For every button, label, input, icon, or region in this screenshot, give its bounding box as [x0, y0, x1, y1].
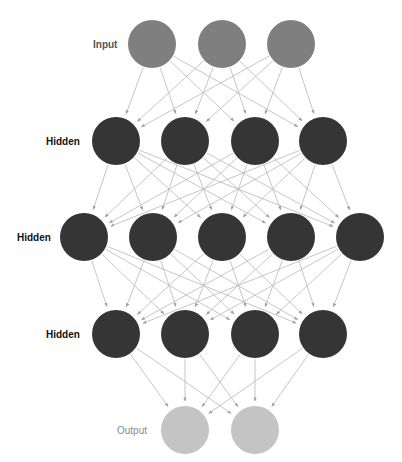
edge-l0n0-l1n0: [126, 67, 143, 113]
edge-l1n3-l2n4: [332, 164, 350, 210]
edge-l0n0-l1n1: [160, 68, 176, 114]
edge-l1n0-l2n3: [138, 153, 266, 223]
edge-l0n2-l1n1: [206, 61, 272, 122]
edge-l3n3-l4n1: [272, 354, 309, 406]
edge-l1n0-l2n0: [93, 165, 108, 210]
edge-l1n0-l2n2: [135, 158, 201, 218]
edge-l3n3-l4n0: [209, 348, 303, 413]
layer-label-hidden-1: Hidden: [46, 136, 80, 147]
layer-label-output: Output: [117, 425, 147, 436]
layer-label-hidden-3: Hidden: [46, 329, 80, 340]
edge-l2n3-l3n1: [206, 254, 272, 315]
hidden-node-2-2: [198, 213, 246, 261]
edge-l2n4-l3n2: [276, 254, 341, 314]
edge-l0n0-l1n3: [174, 56, 298, 126]
edge-l3n0-l4n0: [131, 354, 169, 406]
edge-l2n3-l3n2: [265, 260, 282, 306]
edge-l1n3-l2n2: [243, 158, 305, 217]
edge-l0n2-l1n3: [299, 68, 314, 114]
hidden-node-3-3: [299, 310, 347, 358]
edge-l2n0-l3n0: [92, 261, 107, 307]
hidden-node-2-3: [267, 213, 315, 261]
edge-l1n3-l2n3: [300, 165, 315, 210]
hidden-node-2-4: [336, 213, 384, 261]
input-node-0-1: [198, 20, 246, 68]
edge-l2n4-l3n3: [333, 260, 351, 307]
edge-l1n3-l2n1: [178, 153, 301, 222]
hidden-node-1-1: [161, 117, 209, 165]
layer-label-hidden-2: Hidden: [17, 232, 51, 243]
hidden-node-1-3: [299, 117, 347, 165]
hidden-node-1-0: [92, 117, 140, 165]
hidden-node-2-1: [129, 213, 177, 261]
edge-l3n0-l4n1: [137, 348, 232, 413]
edge-l2n1-l3n2: [171, 254, 234, 314]
hidden-node-3-2: [231, 310, 279, 358]
hidden-node-3-1: [161, 310, 209, 358]
edge-l2n1-l3n0: [126, 260, 144, 307]
neuron-nodes: [60, 20, 384, 454]
edge-l0n1-l1n0: [137, 61, 203, 122]
edge-l0n1-l1n1: [195, 67, 213, 114]
edge-l3n1-l4n1: [200, 354, 238, 406]
hidden-node-3-0: [92, 310, 140, 358]
hidden-node-2-0: [60, 213, 108, 261]
edge-l0n2-l1n0: [141, 56, 269, 127]
edge-l0n1-l1n2: [230, 68, 246, 114]
edge-l2n0-l3n1: [102, 254, 164, 314]
neural-network-diagram: [0, 0, 402, 462]
edge-l2n2-l3n3: [240, 254, 302, 314]
edge-l1n2-l2n4: [274, 158, 339, 218]
hidden-node-1-2: [231, 117, 279, 165]
edge-l0n0-l1n2: [170, 61, 234, 121]
edge-l1n2-l2n1: [174, 158, 237, 217]
edge-l2n0-l3n2: [106, 249, 230, 319]
output-node-4-0: [161, 406, 209, 454]
output-node-4-1: [231, 406, 279, 454]
edge-l0n2-l1n2: [265, 67, 282, 113]
layer-label-input: Input: [93, 39, 117, 50]
edge-l2n1-l3n3: [175, 249, 298, 319]
input-node-0-0: [128, 20, 176, 68]
edge-l2n3-l3n3: [299, 261, 314, 307]
input-node-0-2: [267, 20, 315, 68]
edge-l1n0-l2n1: [125, 164, 143, 210]
edge-l1n2-l2n0: [109, 153, 233, 223]
edge-l3n2-l4n0: [202, 354, 240, 406]
edge-l1n2-l2n3: [264, 164, 281, 209]
edge-l2n1-l3n1: [161, 261, 176, 307]
